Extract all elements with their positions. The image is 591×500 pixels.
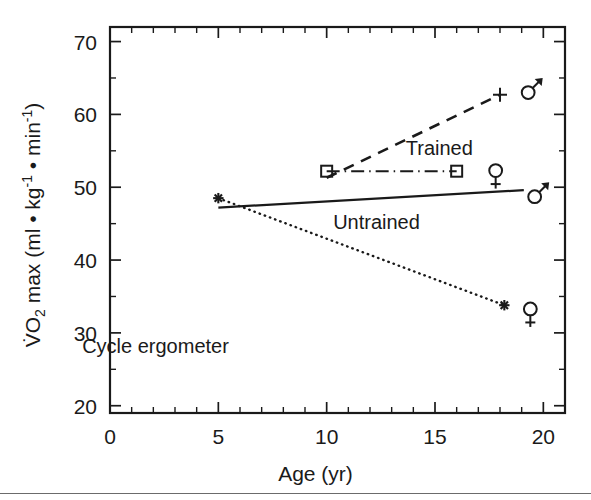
y-tick-label: 20 bbox=[74, 395, 97, 418]
male-symbol-circle bbox=[528, 190, 541, 203]
figure-container: 05101520Age (yr)203040506070V̇O2 max (ml… bbox=[0, 0, 591, 500]
x-tick-label: 0 bbox=[104, 425, 116, 448]
y-tick-label: 70 bbox=[74, 31, 97, 54]
series-trained-male bbox=[327, 78, 543, 178]
male-symbol-circle bbox=[522, 86, 535, 99]
female-symbol-circle bbox=[524, 303, 537, 316]
female-symbol-circle bbox=[489, 164, 502, 177]
y-tick-label: 50 bbox=[74, 176, 97, 199]
figure-bottom-rule bbox=[0, 493, 591, 494]
series-line bbox=[218, 190, 524, 207]
annotation-trained: Trained bbox=[406, 137, 473, 159]
x-tick-label: 10 bbox=[315, 425, 338, 448]
annotation-cycle-ergometer: Cycle ergometer bbox=[82, 335, 229, 357]
y-tick-label: 40 bbox=[74, 249, 97, 272]
svg-text:V̇O2 max (ml • kg-1 • min-1): V̇O2 max (ml • kg-1 • min-1) bbox=[19, 103, 48, 348]
annotations: TrainedUntrainedCycle ergometer bbox=[82, 137, 473, 356]
x-axis-title: Age (yr) bbox=[278, 462, 353, 485]
vo2max-vs-age-chart: 05101520Age (yr)203040506070V̇O2 max (ml… bbox=[0, 0, 591, 500]
annotation-untrained: Untrained bbox=[333, 211, 420, 233]
y-tick-label: 60 bbox=[74, 103, 97, 126]
y-axis-title: V̇O2 max (ml • kg-1 • min-1) bbox=[19, 103, 48, 348]
x-tick-label: 15 bbox=[423, 425, 446, 448]
x-tick-label: 20 bbox=[532, 425, 555, 448]
y-axis: 203040506070 bbox=[74, 31, 565, 418]
series-untrained-male bbox=[218, 182, 549, 207]
x-tick-label: 5 bbox=[212, 425, 224, 448]
